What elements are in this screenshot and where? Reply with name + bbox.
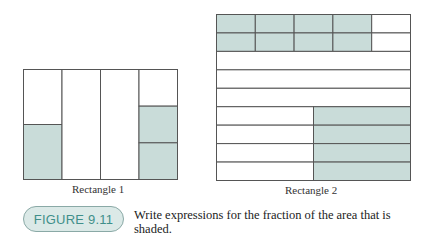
rect2-shaded-part [294, 33, 333, 51]
rect2-shaded-part [217, 33, 256, 51]
rect1-shaded-part [139, 106, 178, 143]
rectangle-2 [217, 15, 411, 181]
rect1-part [139, 70, 178, 107]
rect2-shaded-part [333, 15, 372, 33]
rect2-part [217, 162, 314, 180]
rect2-shaded-part [314, 144, 411, 162]
rect2-part [217, 144, 314, 162]
rect1-part [24, 70, 63, 125]
rect1-shaded-part [24, 125, 63, 180]
rect2-part [217, 70, 411, 88]
rect2-shaded-part [314, 125, 411, 143]
rectangle-1 [24, 70, 178, 180]
rectangle-1-label: Rectangle 1 [72, 183, 124, 195]
rect2-shaded-part [255, 33, 294, 51]
rect2-shaded-part [255, 15, 294, 33]
rect1-shaded-part [139, 143, 178, 180]
rect2-shaded-part [333, 33, 372, 51]
rect1-part [101, 70, 140, 180]
rect2-shaded-part [314, 162, 411, 180]
rect2-part [217, 107, 314, 125]
rect1-part [62, 70, 101, 180]
rect2-part [372, 15, 411, 33]
figure-prompt: Write expressions for the fraction of th… [134, 208, 424, 236]
rectangle-2-label: Rectangle 2 [285, 184, 337, 196]
rect2-part [217, 51, 411, 69]
rect2-shaded-part [314, 107, 411, 125]
figure-number-badge: FIGURE 9.11 [23, 206, 124, 232]
rect2-shaded-part [294, 15, 333, 33]
rect2-part [217, 88, 411, 106]
rect2-shaded-part [217, 15, 256, 33]
rect2-part [372, 33, 411, 51]
rect2-part [217, 125, 314, 143]
